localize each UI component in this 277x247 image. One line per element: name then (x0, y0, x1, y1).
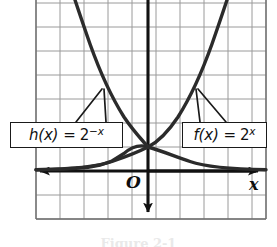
h-function-name: h(x) (29, 126, 58, 144)
f-exponent-value: x (249, 125, 255, 137)
h-equals-sign: = (63, 126, 75, 144)
x-axis-label: x (249, 175, 259, 194)
f-base-value: 2 (240, 126, 249, 144)
grid-lines (36, 0, 266, 219)
origin-label: O (126, 172, 141, 192)
exponential-functions-figure: h(x)=2−x f(x)=2x O x Figure 2-1 (0, 0, 277, 247)
leader-lines-h (76, 89, 106, 122)
figure-caption: Figure 2-1 (0, 236, 277, 247)
h-exponent-value: −x (89, 125, 104, 137)
f-function-name: f(x) (194, 126, 219, 144)
callout-label-f-function: f(x)=2x (182, 122, 267, 148)
h-base-value: 2 (80, 126, 89, 144)
callout-label-h-function: h(x)=2−x (10, 122, 123, 148)
grid-border (36, 0, 266, 219)
f-equals-sign: = (224, 126, 236, 144)
leader-lines-f (196, 89, 226, 122)
